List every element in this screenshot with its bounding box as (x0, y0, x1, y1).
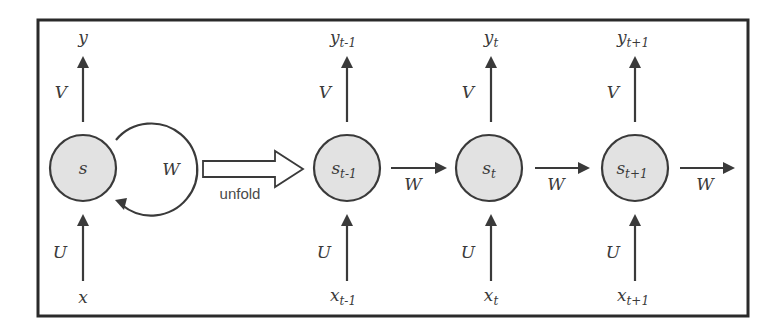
w-label: W (547, 174, 566, 194)
u-label: U (606, 242, 621, 262)
u-label: U (461, 242, 476, 262)
folded-u-label: U (53, 242, 68, 262)
w-label: W (404, 174, 423, 194)
w-label: W (696, 174, 715, 194)
folded-v-label: V (55, 82, 69, 102)
rnn-unfold-diagram: y V s W U x unfold yt-1 V st-1 W (0, 0, 775, 331)
v-label: V (462, 82, 476, 102)
folded-state-label: s (79, 158, 88, 178)
folded-input-label: x (78, 287, 88, 307)
v-label: V (607, 82, 621, 102)
folded-output-label: y (77, 27, 88, 47)
unfold-label: unfold (220, 185, 261, 202)
u-label: U (317, 242, 332, 262)
v-label: V (319, 82, 333, 102)
folded-w-label: W (162, 159, 181, 179)
